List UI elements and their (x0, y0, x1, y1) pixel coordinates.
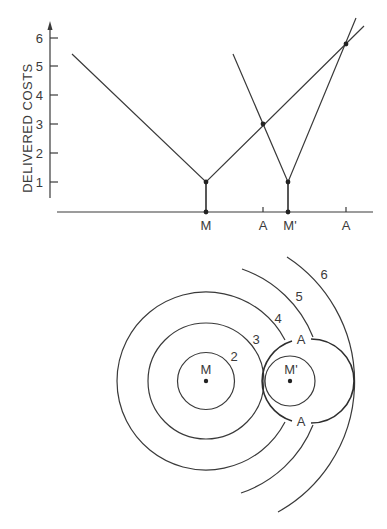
m-location-point (204, 210, 209, 215)
m-center-label: M (201, 362, 212, 377)
y-tick-3: 3 (36, 117, 43, 132)
cost-line-m-prime (233, 18, 356, 182)
x-label-m-prime: M' (283, 218, 296, 233)
m-cost-point (204, 180, 209, 185)
y-axis-arrow-icon (48, 21, 53, 30)
isocost-arc-6 (278, 257, 355, 512)
boundary-label-a-top: A (297, 332, 306, 347)
y-ticks (50, 38, 58, 182)
y-tick-5: 5 (36, 59, 43, 74)
m-prime-boundary-right (311, 339, 354, 423)
figure-canvas: 6 5 4 3 2 1 DELIVERED COSTS M A M' (0, 0, 387, 529)
intersection-a2 (344, 42, 349, 47)
y-tick-labels: 6 5 4 3 2 1 (36, 31, 43, 190)
intersection-a1 (261, 122, 266, 127)
m-prime-boundary-left (262, 341, 292, 421)
x-label-a1: A (259, 218, 268, 233)
y-tick-6: 6 (36, 31, 43, 46)
m-prime-center-label: M' (284, 362, 297, 377)
y-tick-1: 1 (36, 175, 43, 190)
m-prime-center-point (288, 379, 292, 383)
isocost-label-6: 6 (320, 267, 327, 282)
isocost-label-4: 4 (274, 311, 281, 326)
m-center-point (204, 379, 208, 383)
isocost-label-5: 5 (295, 289, 302, 304)
x-label-a2: A (342, 218, 351, 233)
delivered-cost-chart: 6 5 4 3 2 1 DELIVERED COSTS M A M' (20, 18, 373, 233)
isocost-label-3: 3 (252, 332, 259, 347)
y-axis-label: DELIVERED COSTS (20, 63, 35, 193)
isocost-circle-4 (117, 292, 285, 470)
boundary-label-a-bottom: A (297, 414, 306, 429)
y-tick-2: 2 (36, 146, 43, 161)
m-prime-location-point (286, 210, 291, 215)
m-prime-cost-point (286, 180, 291, 185)
isocost-circles-diagram: M M' 2 3 4 5 6 A A (117, 257, 355, 512)
isocost-label-2: 2 (230, 349, 237, 364)
x-label-m: M (201, 218, 212, 233)
y-tick-4: 4 (36, 88, 43, 103)
